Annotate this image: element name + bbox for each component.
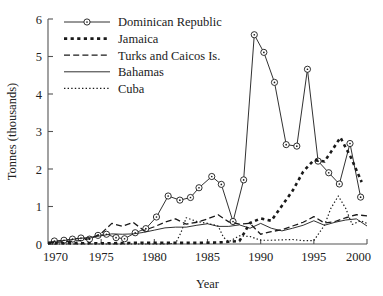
data-point-center (263, 52, 265, 54)
x-tick-label-1985: 1985 (195, 250, 220, 264)
series-line-3 (48, 219, 367, 242)
series-line-1 (48, 138, 362, 244)
y-tick-label-3: 3 (36, 125, 42, 139)
data-point-center (349, 143, 351, 145)
data-point-center (198, 187, 200, 189)
data-point-center (220, 184, 222, 186)
data-series-group (48, 32, 367, 244)
y-tick-label-0: 0 (36, 238, 42, 252)
chart-container: 01234561970197519801985199019952000 Domi… (0, 0, 383, 296)
data-point-center (156, 216, 158, 218)
line-chart: 01234561970197519801985199019952000 Domi… (0, 0, 383, 296)
series-line-2 (48, 215, 367, 243)
data-point-center (328, 172, 330, 174)
x-tick-label-1995: 1995 (301, 250, 326, 264)
data-point-center (211, 176, 213, 178)
data-point-center (339, 183, 341, 185)
series-line-0 (54, 35, 360, 241)
legend-label-0: Dominican Republic (118, 15, 222, 29)
x-tick-label-1970: 1970 (43, 250, 68, 264)
data-point-center (243, 179, 245, 181)
data-point-center (274, 82, 276, 84)
legend-label-2: Turks and Caicos Is. (118, 49, 220, 63)
data-point-center (296, 145, 298, 147)
data-point-center (307, 68, 309, 70)
plot-area: 01234561970197519801985199019952000 Domi… (5, 13, 371, 292)
x-tick-label-1980: 1980 (142, 250, 167, 264)
legend-label-3: Bahamas (118, 65, 164, 79)
data-point-center (124, 238, 126, 240)
x-tick-label-2000: 2000 (346, 250, 371, 264)
data-point-center (115, 237, 117, 239)
data-point-center (360, 196, 362, 198)
y-tick-label-6: 6 (36, 13, 42, 27)
data-point-center (232, 221, 234, 223)
legend-marker-center-0 (86, 21, 88, 23)
legend-label-4: Cuba (118, 82, 145, 96)
data-point-center (167, 195, 169, 197)
chart-legend: Dominican RepublicJamaicaTurks and Caico… (64, 15, 222, 95)
y-axis-title: Tonnes (thousands) (5, 83, 19, 180)
y-tick-label-1: 1 (36, 200, 42, 214)
data-point-center (285, 144, 287, 146)
data-point-center (145, 228, 147, 230)
data-point-center (190, 197, 192, 199)
y-tick-label-5: 5 (36, 50, 42, 64)
data-point-center (179, 199, 181, 201)
y-tick-label-2: 2 (36, 163, 42, 177)
data-point-center (253, 34, 255, 36)
x-tick-label-1975: 1975 (89, 250, 114, 264)
y-tick-label-4: 4 (36, 88, 43, 102)
x-axis-title: Year (196, 277, 220, 291)
x-tick-label-1990: 1990 (248, 250, 273, 264)
legend-label-1: Jamaica (118, 32, 159, 46)
